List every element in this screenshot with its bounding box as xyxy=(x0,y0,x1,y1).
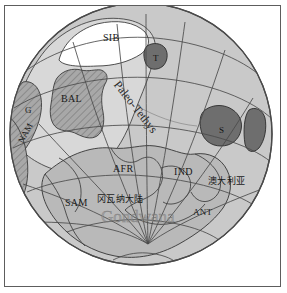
figure-container: SIB T BAL G NAM S AFR IND SAM ANT 澳大利亚 冈… xyxy=(0,0,287,293)
block-tarim xyxy=(144,44,167,70)
figure-frame: SIB T BAL G NAM S AFR IND SAM ANT 澳大利亚 冈… xyxy=(4,5,281,287)
paleogeographic-map xyxy=(5,6,279,285)
